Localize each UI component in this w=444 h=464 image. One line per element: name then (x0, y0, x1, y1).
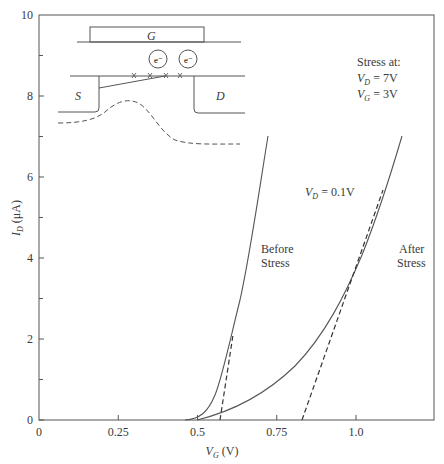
chart: 0 2 4 6 8 10 0 0.25 0.5 0.75 1.0 VG (V) … (0, 0, 444, 464)
x-axis (118, 415, 356, 420)
x-tick-0-5: 0.5 (190, 425, 205, 439)
y-tick-4: 4 (27, 251, 33, 265)
after-stress-curve (197, 136, 402, 420)
electron-label-1: e⁻ (154, 55, 163, 65)
y-tick-2: 2 (27, 332, 33, 346)
y-tick-8: 8 (27, 89, 33, 103)
x-tick-1-0: 1.0 (349, 425, 364, 439)
x-tick-0: 0 (36, 425, 42, 439)
y-tick-10: 10 (21, 8, 33, 22)
before-label-1: Before (261, 242, 294, 256)
x-tick-0-25: 0.25 (108, 425, 129, 439)
y-tick-6: 6 (27, 170, 33, 184)
y-axis (39, 56, 44, 421)
electron-label-2: e⁻ (184, 55, 193, 65)
depletion-boundary (58, 101, 240, 144)
stress-vd: VD = 7V (357, 71, 398, 87)
after-label-1: After (399, 242, 424, 256)
y-tick-0: 0 (27, 413, 33, 427)
x-tick-0-75: 0.75 (266, 425, 287, 439)
y-axis-label: ID (μA) (9, 200, 25, 237)
source-label: S (75, 89, 81, 103)
drain-label: D (215, 89, 225, 103)
x-tick-labels: 0 0.25 0.5 0.75 1.0 (36, 425, 364, 439)
gate-label: G (147, 29, 156, 43)
after-label-2: Stress (397, 256, 426, 270)
after-stress-extrapolation (302, 190, 383, 420)
before-label-2: Stress (261, 256, 290, 270)
x-axis-label: VG (V) (206, 444, 239, 460)
mosfet-inset (58, 27, 245, 144)
stress-title: Stress at: (357, 55, 401, 69)
vd-label: VD = 0.1V (305, 185, 355, 201)
before-stress-extrapolation (220, 335, 233, 420)
stress-vg: VG = 3V (357, 87, 398, 103)
